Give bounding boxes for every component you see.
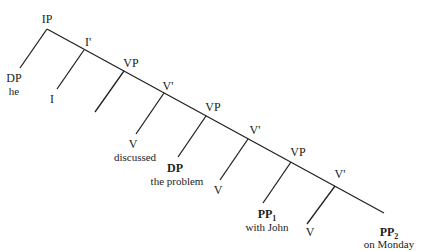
node-vbar2: V' [250,124,261,136]
word-with-john: with John [245,222,288,233]
branch-edge [178,116,206,157]
tree-lines [0,0,421,251]
branch-edge [220,139,248,180]
node-v2: V [214,184,223,196]
node-dp-he: DP [6,72,21,84]
syntax-tree-diagram: IPDPheI'IVPV'VdiscussedVPDPthe problemV'… [0,0,421,251]
node-v3: V [306,226,315,238]
word-he: he [9,86,19,97]
word-on-monday: on Monday [364,239,414,250]
branch-edge [263,162,291,203]
branch-edge [95,71,124,112]
branch-edge [20,29,47,68]
word-the-problem: the problem [151,176,204,187]
node-vp3: VP [290,146,305,158]
node-ip: IP [42,13,53,25]
node-vbar1: V' [163,80,174,92]
node-i: I [50,93,54,105]
word-discussed: discussed [114,152,156,163]
branch-edge [136,93,164,134]
branch-edge [57,50,84,89]
node-vp1: VP [123,57,138,69]
branch-edge [307,186,335,224]
node-vbar3: V' [335,168,346,180]
node-v1: V [129,138,138,150]
node-dp: DP [167,162,183,174]
node-ibar: I' [85,36,91,48]
node-vp2: VP [205,101,220,113]
